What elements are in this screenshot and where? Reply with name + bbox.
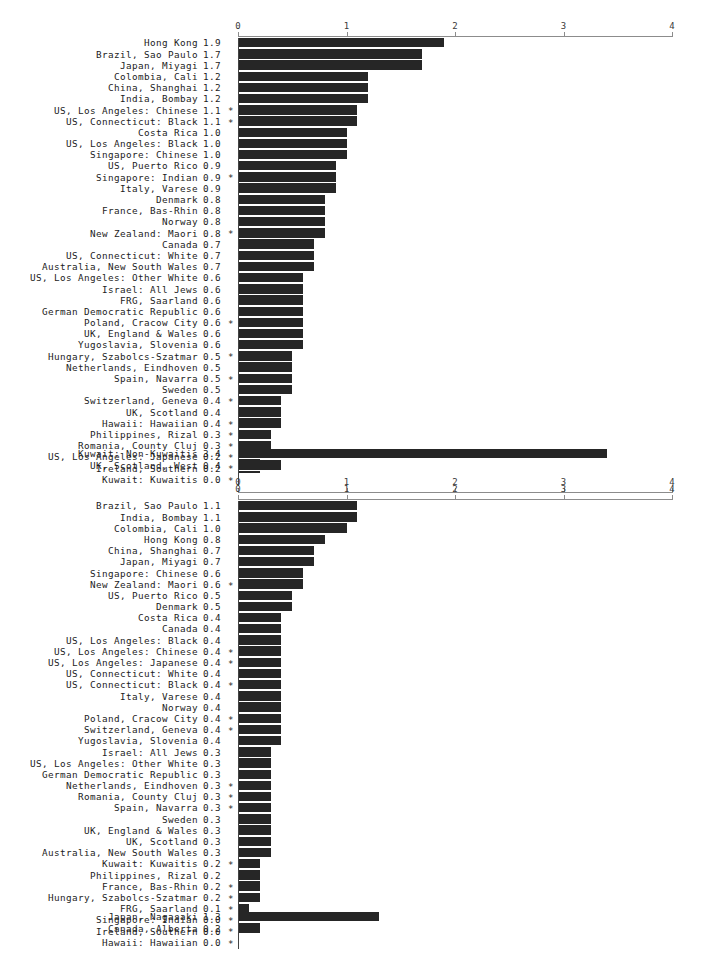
axis-tick-label: 1: [344, 22, 349, 31]
bar-row: Hawaii: Hawaiian0.4*: [0, 418, 704, 429]
axis-tick: [672, 495, 673, 500]
bar-value-label: 0.8: [203, 195, 221, 205]
bar-row: China, Shanghai1.2: [0, 83, 704, 94]
zero-baseline: [238, 501, 239, 949]
bar-row: New Zealand: Maori0.8*: [0, 228, 704, 239]
bar-row: Yugoslavia, Slovenia0.6: [0, 340, 704, 351]
bar-category-label: Hong Kong: [144, 535, 198, 545]
significance-marker: *: [228, 883, 233, 893]
significance-marker: *: [228, 352, 233, 362]
bar-category-label: New Zealand: Maori: [90, 229, 198, 239]
bar-value-label: 0.6: [203, 273, 221, 283]
bar-category-label: German Democratic Republic: [42, 770, 198, 780]
bar-value-label: 0.5: [203, 385, 221, 395]
significance-marker: *: [228, 173, 233, 183]
bar: [238, 83, 368, 93]
axis-tick: [455, 32, 456, 37]
bar-row: France, Bas-Rhin0.2*: [0, 881, 704, 892]
bar: [238, 535, 325, 545]
bar: [238, 881, 260, 891]
bar-category-label: Denmark: [156, 195, 198, 205]
bar: [238, 635, 281, 645]
bar-category-label: Costa Rica: [138, 128, 198, 138]
bar: [238, 736, 281, 746]
significance-marker: *: [228, 860, 233, 870]
bar-category-label: Switzerland, Geneva: [84, 396, 198, 406]
bar-value-label: 0.2: [203, 882, 221, 892]
bar: [238, 781, 271, 791]
bar-row: Hong Kong1.9: [0, 38, 704, 49]
axis-tick: [238, 32, 239, 37]
bar-row: Japan, Nagasaki1.3: [0, 912, 704, 923]
bar-row: Costa Rica1.0: [0, 128, 704, 139]
bar: [238, 893, 260, 903]
bar: [238, 217, 325, 227]
bar-row: Norway0.8: [0, 217, 704, 228]
bar-rows-chart-2: Brazil, Sao Paulo1.1India, Bombay1.1Colo…: [0, 501, 704, 949]
bar-value-label: 0.7: [203, 262, 221, 272]
bar-value-label: 0.8: [203, 206, 221, 216]
significance-marker: *: [228, 715, 233, 725]
bar-value-label: 1.1: [203, 117, 221, 127]
bar-value-label: 0.4: [203, 736, 221, 746]
bar: [238, 351, 292, 361]
bar-row: US, Los Angeles: Other White0.6: [0, 273, 704, 284]
bar-rows-extra-chart-1: Kuwait: Non-Kuwaitis3.4UK, Scotland, Wes…: [0, 449, 704, 471]
bar-value-label: 0.9: [203, 173, 221, 183]
bar-category-label: Philippines, Rizal: [90, 430, 198, 440]
bar: [238, 206, 325, 216]
significance-marker: *: [228, 319, 233, 329]
bar-category-label: Philippines, Rizal: [90, 871, 198, 881]
bar-category-label: Japan, Miyagi: [120, 61, 198, 71]
bar: [238, 501, 357, 511]
bar: [238, 770, 271, 780]
bar-value-label: 0.0: [203, 938, 221, 948]
bar-category-label: US, Los Angeles: Chinese: [54, 106, 198, 116]
bar-value-label: 0.7: [203, 546, 221, 556]
bar: [238, 870, 260, 880]
bar-row: France, Bas-Rhin0.8: [0, 206, 704, 217]
zero-baseline: [238, 38, 239, 486]
bar-category-label: Poland, Cracow City: [84, 318, 198, 328]
bar-row: Norway0.4: [0, 702, 704, 713]
axis-tick-label: 3: [561, 22, 566, 31]
bar-value-label: 1.1: [203, 106, 221, 116]
bar-category-label: US, Connecticut: White: [66, 669, 198, 679]
bar-row: Netherlands, Eindhoven0.5: [0, 362, 704, 373]
axis-tick-label: 4: [669, 22, 674, 31]
bar-category-label: UK, Scotland: [126, 408, 198, 418]
zero-baseline: [238, 449, 239, 471]
bar-row: Brazil, Sao Paulo1.1: [0, 501, 704, 512]
bar: [238, 161, 336, 171]
bar-value-label: 0.6: [203, 285, 221, 295]
bar-category-label: Australia, New South Wales: [42, 262, 198, 272]
bar-row: US, Connecticut: White0.4: [0, 669, 704, 680]
significance-marker: *: [228, 804, 233, 814]
bar-row: Italy, Varese0.4: [0, 691, 704, 702]
bar: [238, 329, 303, 339]
bar-category-label: Netherlands, Eindhoven: [66, 781, 198, 791]
bar-category-label: US, Los Angeles: Chinese: [54, 647, 198, 657]
bar: [238, 38, 444, 48]
bar-row: Sweden0.5: [0, 385, 704, 396]
bar-category-label: France, Bas-Rhin: [102, 206, 198, 216]
bar-value-label: 0.3: [203, 792, 221, 802]
bar-row: Singapore: Chinese1.0: [0, 150, 704, 161]
bar-row: Kuwait: Non-Kuwaitis3.4: [0, 449, 704, 460]
bar-category-label: Colombia, Cali: [114, 72, 198, 82]
bar-row: US, Los Angeles: Chinese1.1*: [0, 105, 704, 116]
bar-value-label: 3.4: [203, 449, 221, 459]
bar: [238, 658, 281, 668]
bar: [238, 613, 281, 623]
bar-value-label: 0.3: [203, 430, 221, 440]
bar: [238, 923, 260, 933]
axis-tick: [347, 495, 348, 500]
bar-category-label: Denmark: [156, 602, 198, 612]
bar-category-label: Yugoslavia, Slovenia: [78, 340, 198, 350]
bar: [238, 691, 281, 701]
bar-value-label: 1.0: [203, 150, 221, 160]
bar: [238, 307, 303, 317]
bar-row: Japan, Miyagi1.7: [0, 60, 704, 71]
bar: [238, 396, 281, 406]
bar-category-label: Netherlands, Eindhoven: [66, 363, 198, 373]
